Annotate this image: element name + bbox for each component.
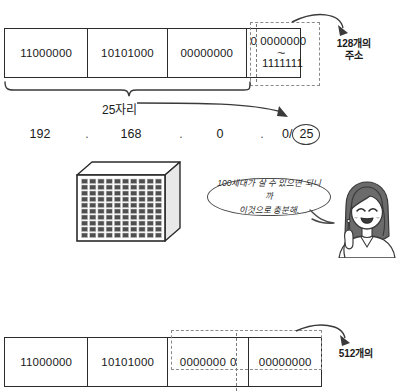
top-octet-cell-2: 10101000 <box>88 29 167 77</box>
top-octet-cell-1: 11000000 <box>5 29 88 77</box>
top-octet-3-bits: 00000000 <box>180 47 233 59</box>
top-octet-2-bits: 10101000 <box>101 47 154 59</box>
ip-separator-1: . <box>76 127 98 141</box>
bottom-octet-cell-2: 10101000 <box>88 338 168 386</box>
ip-address-row: 192 . 168 . 0 . 0/ 25 <box>4 122 344 146</box>
top-address-count-label: 128개의 주소 <box>324 38 384 62</box>
ip-prefix-group: 0/ 25 <box>282 124 320 145</box>
ip-prefix-length-circled: 25 <box>292 124 320 145</box>
ip-separator-3: . <box>242 127 282 141</box>
ip-separator-2: . <box>164 127 198 141</box>
top-host-bits-highlight <box>250 22 320 86</box>
bottom-octet-2-bits: 10101000 <box>101 356 154 368</box>
top-octet-1-bits: 11000000 <box>20 47 72 59</box>
apartment-building-illustration <box>70 158 185 253</box>
ip-octet-1: 192 <box>4 127 76 141</box>
bottom-octet-cell-1: 11000000 <box>5 338 88 386</box>
ip-octet-4: 0/ <box>282 127 292 141</box>
top-prefix-length-label: 25자리 <box>102 100 137 117</box>
speech-bubble-line-1: 100세대가 살 수 있으면 되니까 <box>216 177 322 203</box>
top-octet-cell-3: 00000000 <box>168 29 247 77</box>
bottom-address-count-label: 512개의 <box>326 348 386 360</box>
ip-octet-3: 0 <box>198 127 242 141</box>
ip-octet-2: 168 <box>98 127 164 141</box>
bottom-host-bits-highlight <box>171 330 322 370</box>
bottom-octet-1-bits: 11000000 <box>20 356 72 368</box>
speech-bubble-line-2: 이것으로 충분해. <box>239 204 300 217</box>
character-illustration <box>332 178 401 258</box>
